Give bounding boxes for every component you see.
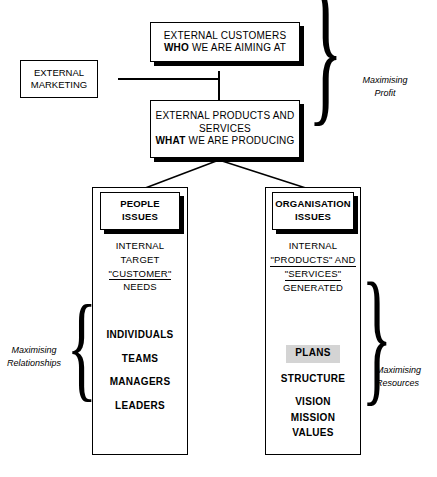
box-external-products[interactable]: EXTERNAL PRODUCTS AND SERVICES WHAT WE A… (150, 100, 300, 158)
left-desc-2: "CUSTOMER" (109, 269, 172, 281)
people-issues-line1: PEOPLE (120, 198, 160, 211)
right-item-4[interactable]: VALUES (265, 426, 361, 441)
diagram-canvas: EXTERNAL CUSTOMERS WHO WE ARE AIMING AT … (0, 0, 437, 477)
right-item-1[interactable]: STRUCTURE (265, 372, 361, 387)
left-desc-1: TARGET (92, 253, 188, 267)
brace-left: { (68, 318, 96, 376)
annotation-profit-line1: Maximising (340, 74, 430, 87)
external-products-line1: EXTERNAL PRODUCTS AND (156, 110, 295, 123)
annotation-relationships-line2: Relationships (0, 357, 70, 370)
right-desc-1: "PRODUCTS" AND (270, 255, 355, 267)
external-marketing-line1: EXTERNAL (34, 67, 84, 79)
external-products-line2: SERVICES (199, 123, 251, 136)
box-organisation-issues[interactable]: ORGANISATION ISSUES (272, 192, 354, 230)
external-customers-line2-rest: WE ARE AIMING AT (189, 42, 286, 53)
external-products-line3: WHAT WE ARE PRODUCING (155, 135, 294, 148)
external-customers-who-bold: WHO (164, 42, 189, 53)
right-item-0-wrap: PLANS (265, 345, 361, 363)
right-desc-3: GENERATED (262, 281, 364, 295)
right-desc-2: "SERVICES" (285, 269, 342, 281)
annotation-resources-line1: Maximising (376, 364, 437, 377)
connector-to-left-column (140, 160, 219, 190)
left-column-description: INTERNAL TARGET "CUSTOMER" NEEDS (92, 239, 188, 294)
people-issues-line2: ISSUES (122, 211, 158, 224)
left-item-0[interactable]: INDIVIDUALS (92, 328, 188, 343)
brace-top-right-glyph: } (308, 0, 343, 132)
external-customers-line1: EXTERNAL CUSTOMERS (164, 30, 287, 43)
annotation-resources-line2: Resources (376, 377, 437, 390)
left-column-items: INDIVIDUALS TEAMS MANAGERS LEADERS (92, 328, 188, 422)
right-desc-0: INTERNAL (262, 239, 364, 253)
connector-to-right-column (219, 160, 312, 190)
external-customers-line2: WHO WE ARE AIMING AT (164, 42, 286, 55)
box-people-issues[interactable]: PEOPLE ISSUES (100, 192, 180, 230)
left-desc-2-wrap: "CUSTOMER" (92, 267, 188, 281)
annotation-maximising-resources: Maximising Resources (376, 364, 437, 390)
brace-right: } (363, 308, 391, 366)
left-desc-0: INTERNAL (92, 239, 188, 253)
annotation-maximising-relationships: Maximising Relationships (0, 344, 70, 370)
annotation-profit-line2: Profit (340, 87, 430, 100)
left-item-2[interactable]: MANAGERS (92, 375, 188, 390)
right-item-3[interactable]: MISSION (265, 411, 361, 426)
right-desc-2-wrap: "SERVICES" (262, 267, 364, 281)
annotation-relationships-line1: Maximising (0, 344, 70, 357)
right-column-description: INTERNAL "PRODUCTS" AND "SERVICES" GENER… (262, 239, 364, 294)
organisation-issues-line2: ISSUES (295, 211, 331, 224)
brace-left-glyph: { (67, 288, 98, 407)
right-column-items: PLANS STRUCTURE VISION MISSION VALUES (265, 345, 361, 442)
annotation-maximising-profit: Maximising Profit (340, 74, 430, 100)
right-item-2[interactable]: VISION (265, 395, 361, 410)
external-products-line3-rest: WE ARE PRODUCING (186, 135, 295, 146)
box-external-customers[interactable]: EXTERNAL CUSTOMERS WHO WE ARE AIMING AT (150, 22, 300, 62)
external-marketing-line2: MARKETING (31, 79, 87, 91)
left-item-3[interactable]: LEADERS (92, 399, 188, 414)
left-item-1[interactable]: TEAMS (92, 352, 188, 367)
external-products-what-bold: WHAT (155, 135, 185, 146)
right-desc-1-wrap: "PRODUCTS" AND (262, 253, 364, 267)
left-desc-3: NEEDS (92, 280, 188, 294)
box-external-marketing[interactable]: EXTERNAL MARKETING (20, 60, 98, 98)
organisation-issues-line1: ORGANISATION (275, 198, 351, 211)
right-item-0[interactable]: PLANS (286, 345, 339, 363)
brace-top-right: } (310, 18, 341, 82)
